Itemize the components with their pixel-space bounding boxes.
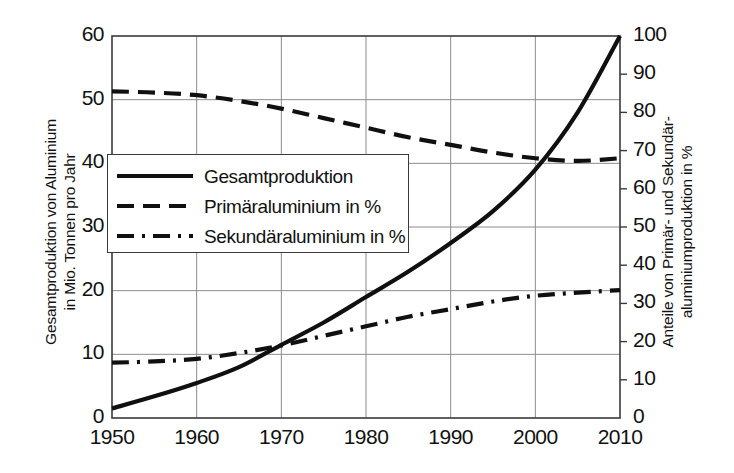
tick-marks <box>620 74 627 380</box>
y-axis-left-tick-40: 40 <box>34 149 104 173</box>
y-axis-left-tick-50: 50 <box>34 86 104 110</box>
x-axis-tick-1950: 1950 <box>67 425 157 449</box>
chart-figure: Gesamtproduktion von Aluminium in Mio. T… <box>0 0 734 473</box>
y-axis-left-tick-30: 30 <box>34 213 104 237</box>
y-axis-right-tick-20: 20 <box>633 328 693 352</box>
legend-swatch-dashed-icon <box>116 199 194 213</box>
y-axis-left-tick-60: 60 <box>34 22 104 46</box>
legend-label-1: Gesamtproduktion <box>204 167 353 186</box>
x-axis-tick-2000: 2000 <box>490 425 580 449</box>
y-axis-right-tick-50: 50 <box>633 213 693 237</box>
legend-swatch-solid-icon <box>116 169 194 183</box>
x-axis-tick-1960: 1960 <box>152 425 242 449</box>
y-axis-right-tick-70: 70 <box>633 137 693 161</box>
y-axis-right-tick-30: 30 <box>633 289 693 313</box>
y-axis-right-tick-90: 90 <box>633 60 693 84</box>
legend: GesamtproduktionPrimäraluminium in %Seku… <box>107 154 409 253</box>
y-axis-left-tick-20: 20 <box>34 277 104 301</box>
legend-label-2: Primäraluminium in % <box>204 197 381 216</box>
y-axis-right-tick-10: 10 <box>633 366 693 390</box>
y-axis-right-tick-80: 80 <box>633 98 693 122</box>
legend-swatch-dash-dot-icon <box>116 229 194 243</box>
y-axis-right-tick-60: 60 <box>633 175 693 199</box>
legend-item-2: Primäraluminium in % <box>116 191 381 221</box>
x-axis-tick-1980: 1980 <box>321 425 411 449</box>
y-axis-right-tick-40: 40 <box>633 251 693 275</box>
x-axis-tick-1970: 1970 <box>236 425 326 449</box>
y-axis-right-tick-100: 100 <box>633 22 693 46</box>
legend-label-3: Sekundäraluminium in % <box>204 227 405 246</box>
legend-item-3: Sekundäraluminium in % <box>116 221 405 251</box>
x-axis-tick-2010: 2010 <box>575 425 665 449</box>
x-axis-tick-1990: 1990 <box>406 425 496 449</box>
legend-item-1: Gesamtproduktion <box>116 161 353 191</box>
y-axis-left-tick-10: 10 <box>34 340 104 364</box>
